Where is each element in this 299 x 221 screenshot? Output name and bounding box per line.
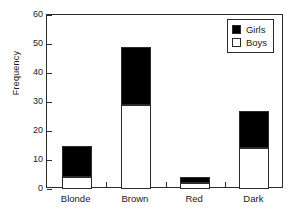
x-tick-mark-line xyxy=(225,182,226,187)
y-tick-mark xyxy=(47,102,52,103)
legend-item-boys: Boys xyxy=(232,36,267,49)
y-tick-mark xyxy=(47,73,52,74)
bar-segment-boys-blonde xyxy=(62,177,92,189)
x-axis-label-blonde: Blonde xyxy=(46,193,105,204)
y-tick-mark xyxy=(47,15,52,16)
y-tick-mark xyxy=(47,131,52,132)
legend-item-girls: Girls xyxy=(232,23,267,36)
bar-segment-girls-red xyxy=(180,177,210,183)
y-tick-label: 60 xyxy=(33,9,43,19)
y-tick-label: 0 xyxy=(38,183,43,193)
legend-swatch-boys-icon xyxy=(232,38,241,47)
y-axis-title: Frequency xyxy=(11,33,21,113)
y-tick-label: 50 xyxy=(33,38,43,48)
bar-segment-boys-brown xyxy=(121,105,151,189)
x-tick-mark-line xyxy=(106,182,107,187)
bar-segment-boys-dark xyxy=(239,148,269,189)
bar-segment-girls-brown xyxy=(121,47,151,105)
y-tick-mark xyxy=(47,44,52,45)
x-axis-label-brown: Brown xyxy=(105,193,164,204)
x-axis-label-dark: Dark xyxy=(224,193,283,204)
x-tick-mark-line xyxy=(166,182,167,187)
y-tick-label: 10 xyxy=(33,154,43,164)
bar-chart-figure: Frequency 0102030405060 GirlsBoys Blonde… xyxy=(0,0,299,221)
chart-legend: GirlsBoys xyxy=(227,19,274,53)
x-axis-label-red: Red xyxy=(165,193,224,204)
plot-area: 0102030405060 GirlsBoys xyxy=(46,14,283,188)
y-tick-mark xyxy=(47,160,52,161)
legend-label-boys: Boys xyxy=(246,37,267,48)
bar-segment-boys-red xyxy=(180,183,210,189)
y-tick-mark xyxy=(47,189,52,190)
legend-swatch-girls-icon xyxy=(232,25,241,34)
legend-label-girls: Girls xyxy=(246,24,266,35)
bar-red xyxy=(180,15,210,189)
y-tick-label: 30 xyxy=(33,96,43,106)
y-tick-label: 20 xyxy=(33,125,43,135)
bar-segment-girls-blonde xyxy=(62,146,92,178)
bar-blonde xyxy=(62,15,92,189)
bar-segment-girls-dark xyxy=(239,111,269,149)
bar-brown xyxy=(121,15,151,189)
y-tick-label: 40 xyxy=(33,67,43,77)
